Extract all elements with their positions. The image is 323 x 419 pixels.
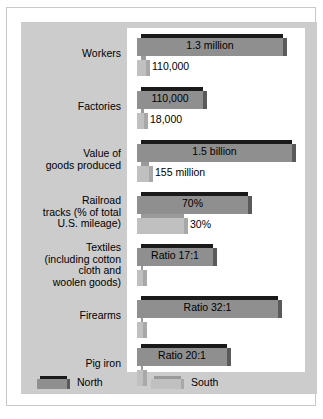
bar-north-factories: 110,000 <box>137 87 203 109</box>
bar-group-factories: Factories 110,000 18,000 <box>21 87 317 131</box>
bar-front-face <box>137 300 278 318</box>
bar-front-face <box>137 113 144 129</box>
bar-side-face <box>278 300 282 318</box>
figure-border: Workers 1.3 million 110,000 Factories <box>6 7 316 406</box>
legend-swatch-north <box>37 376 67 389</box>
bar-side-face <box>283 38 287 56</box>
bar-north-pig-iron: Ratio 20:1 <box>137 344 227 366</box>
bar-side-face <box>203 91 207 109</box>
bar-front-face <box>137 322 143 338</box>
bar-side-face <box>213 248 217 266</box>
bar-south-firearms <box>137 318 143 338</box>
chart-panel: Workers 1.3 million 110,000 Factories <box>21 22 317 394</box>
bar-front-face <box>137 348 227 366</box>
category-label-workers: Workers <box>21 48 121 60</box>
bar-side-face <box>292 144 296 162</box>
bar-group-value-of-goods-produced: Value of goods produced 1.5 billion 155 … <box>21 140 317 184</box>
bar-front-face <box>137 248 213 266</box>
bar-north-value-of-goods-produced: 1.5 billion <box>137 140 292 162</box>
bar-side-face <box>143 322 147 338</box>
bar-side-face <box>184 218 188 234</box>
bar-front-face <box>137 144 292 162</box>
bar-group-firearms: Firearms Ratio 32:1 <box>21 296 317 340</box>
chart-figure: Workers 1.3 million 110,000 Factories <box>0 0 323 419</box>
bar-north-railroad-tracks: 70% <box>137 192 248 214</box>
bar-side-face <box>146 60 150 76</box>
bar-side-face <box>144 113 148 129</box>
category-label-railroad-tracks: Railroad tracks (% of total U.S. mileage… <box>21 195 121 230</box>
bar-front-face <box>137 166 149 182</box>
bar-south-value-of-goods-produced: 155 million <box>137 162 149 182</box>
category-label-pig-iron: Pig iron <box>21 358 121 370</box>
bar-south-railroad-tracks: 30% <box>137 214 184 234</box>
bar-south-textiles <box>137 266 143 286</box>
category-label-textiles: Textiles (including cotton cloth and woo… <box>21 242 121 288</box>
bar-group-workers: Workers 1.3 million 110,000 <box>21 34 317 78</box>
legend-label-north: North <box>77 376 103 389</box>
bar-group-textiles: Textiles (including cotton cloth and woo… <box>21 244 317 288</box>
category-label-factories: Factories <box>21 101 121 113</box>
bar-side-face <box>248 196 252 214</box>
bar-value-south-factories: 18,000 <box>150 113 182 125</box>
bar-south-factories: 18,000 <box>137 109 144 129</box>
bar-side-face <box>149 166 153 182</box>
swatch-side-face <box>67 379 70 389</box>
bar-group-railroad-tracks: Railroad tracks (% of total U.S. mileage… <box>21 192 317 236</box>
bar-north-textiles: Ratio 17:1 <box>137 244 213 266</box>
bar-front-face <box>137 218 184 234</box>
bar-front-face <box>137 196 248 214</box>
chart-legend: North South <box>21 374 317 394</box>
legend-label-south: South <box>191 376 218 389</box>
bar-front-face <box>137 60 146 76</box>
bar-value-south-railroad-tracks: 30% <box>190 218 211 230</box>
swatch-front-face <box>151 379 181 389</box>
bar-value-south-value-of-goods-produced: 155 million <box>155 166 205 178</box>
swatch-side-face <box>181 379 184 389</box>
swatch-front-face <box>37 379 67 389</box>
bar-front-face <box>137 91 203 109</box>
bar-north-firearms: Ratio 32:1 <box>137 296 278 318</box>
bar-north-workers: 1.3 million <box>137 34 283 56</box>
bar-south-workers: 110,000 <box>137 56 146 76</box>
bar-side-face <box>227 348 231 366</box>
bar-value-south-workers: 110,000 <box>152 60 189 72</box>
bar-front-face <box>137 38 283 56</box>
legend-swatch-south <box>151 376 181 389</box>
bar-side-face <box>143 270 147 286</box>
category-label-firearms: Firearms <box>21 310 121 322</box>
category-label-value-of-goods-produced: Value of goods produced <box>21 148 121 171</box>
bar-front-face <box>137 270 143 286</box>
